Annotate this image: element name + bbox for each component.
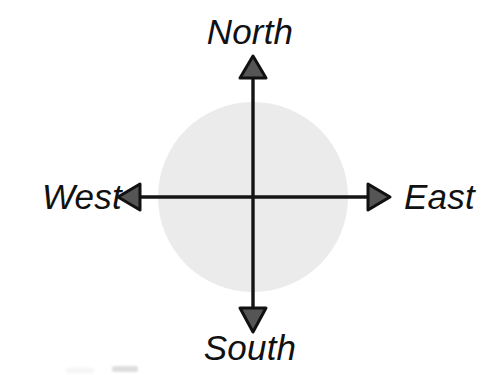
north-arrowhead-icon bbox=[240, 56, 266, 78]
scan-artifact-right bbox=[112, 366, 138, 372]
direction-label-north: North bbox=[0, 14, 500, 49]
east-arrowhead-icon bbox=[368, 184, 390, 210]
direction-label-west: West bbox=[42, 179, 122, 214]
compass-diagram: North South West East bbox=[0, 0, 500, 375]
scan-artifact-left bbox=[66, 368, 94, 373]
direction-label-south: South bbox=[0, 330, 500, 365]
direction-label-east: East bbox=[404, 179, 475, 214]
